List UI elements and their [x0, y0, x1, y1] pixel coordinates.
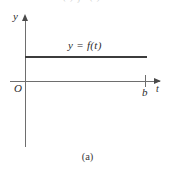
y-axis-line — [25, 19, 26, 147]
t-axis-label: t — [156, 84, 159, 94]
figure-caption: (a) — [0, 151, 175, 162]
figure-container: ( ) ∫0 ( ) = y O b t y = f(t) (a) — [0, 0, 175, 174]
origin-label: O — [14, 83, 22, 94]
t-axis-line — [10, 81, 160, 82]
cropped-equation-fragment: ( ) ∫0 ( ) = — [0, 0, 175, 6]
y-axis-arrow-icon — [22, 14, 28, 21]
function-plot-line — [25, 56, 147, 58]
y-axis-label: y — [13, 11, 18, 22]
x-axis-tick-label-b: b — [142, 87, 148, 98]
function-annotation-label: y = f(t) — [68, 40, 102, 51]
